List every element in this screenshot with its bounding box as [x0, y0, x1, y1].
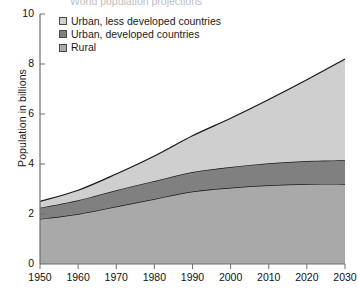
x-tick-label: 2030 [325, 271, 358, 283]
x-tick-label: 2000 [211, 271, 251, 283]
y-tick-label: 0 [10, 257, 34, 269]
x-tick-label: 1980 [134, 271, 174, 283]
x-tick-label: 1960 [58, 271, 98, 283]
x-tick-label: 2010 [249, 271, 289, 283]
area-series-group [40, 59, 345, 264]
x-tick-label: 1970 [96, 271, 136, 283]
x-tick-label: 1950 [20, 271, 60, 283]
y-tick-label: 4 [10, 157, 34, 169]
x-tick-label: 1990 [173, 271, 213, 283]
y-tick-label: 8 [10, 57, 34, 69]
y-tick-label: 2 [10, 207, 34, 219]
area-chart-svg [40, 14, 345, 264]
chart-container: World population projections Population … [0, 0, 358, 290]
plot-area [40, 14, 345, 264]
chart-title: World population projections [70, 0, 202, 7]
y-tick-label: 10 [10, 7, 34, 19]
y-tick-label: 6 [10, 107, 34, 119]
x-tick-label: 2020 [287, 271, 327, 283]
